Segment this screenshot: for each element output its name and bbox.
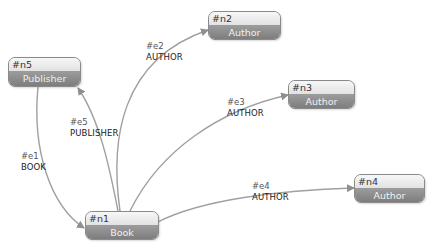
edge-id: #e2 [146,41,183,52]
edge-id: #e3 [227,97,264,108]
edge-id: #e4 [252,181,289,192]
node-id: #n5 [9,58,80,72]
edge-type: AUTHOR [227,108,264,119]
node-id: #n3 [289,81,354,95]
node-n4[interactable]: #n4 Author [354,174,425,203]
edge-id: #e5 [70,117,118,128]
node-label: Author [289,95,354,109]
node-label: Book [86,226,158,240]
edge-label-e1: #e1 BOOK [21,151,46,173]
edge-label-e5: #e5 PUBLISHER [70,117,118,139]
node-n3[interactable]: #n3 Author [288,80,355,109]
node-n1[interactable]: #n1 Book [85,211,159,240]
edge-type: AUTHOR [146,52,183,63]
node-id: #n2 [209,12,280,26]
node-id: #n1 [86,212,158,226]
edge-id: #e1 [21,151,46,162]
edge-type: BOOK [21,162,46,173]
edge-label-e2: #e2 AUTHOR [146,41,183,63]
node-label: Publisher [9,72,80,86]
edge-type: AUTHOR [252,192,289,203]
edge-type: PUBLISHER [70,128,118,139]
edge-e5[interactable] [78,88,118,211]
node-label: Author [209,26,280,40]
node-label: Author [355,189,424,203]
node-n5[interactable]: #n5 Publisher [8,57,81,87]
edge-label-e3: #e3 AUTHOR [227,97,264,119]
node-n2[interactable]: #n2 Author [208,11,281,40]
edge-label-e4: #e4 AUTHOR [252,181,289,203]
node-id: #n4 [355,175,424,189]
